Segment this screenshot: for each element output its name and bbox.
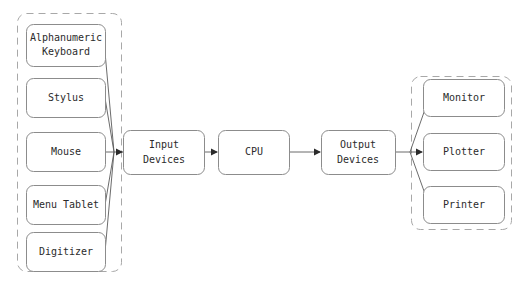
- node-mouse[interactable]: Mouse: [27, 133, 106, 172]
- node-stylus-label: Stylus: [48, 92, 84, 103]
- node-input-devices-box[interactable]: [124, 131, 205, 175]
- node-menu-tablet-label: Menu Tablet: [33, 199, 99, 210]
- node-mouse-label: Mouse: [51, 146, 81, 157]
- node-cpu[interactable]: CPU: [219, 131, 290, 175]
- node-printer-label: Printer: [443, 199, 485, 210]
- node-alphanumeric-keyboard[interactable]: Alphanumeric Keyboard: [27, 25, 106, 67]
- node-alphanumeric-keyboard-label-line1: Alphanumeric: [30, 32, 102, 43]
- block-diagram: Alphanumeric Keyboard Stylus Mouse Menu …: [0, 0, 525, 294]
- node-menu-tablet[interactable]: Menu Tablet: [27, 186, 106, 225]
- node-output-devices-box[interactable]: [322, 131, 396, 175]
- node-monitor-label: Monitor: [443, 92, 485, 103]
- diagram-canvas: Alphanumeric Keyboard Stylus Mouse Menu …: [0, 0, 525, 294]
- link-digitizer-to-input: [105, 152, 114, 252]
- node-input-devices-label-line1: Input: [149, 139, 179, 150]
- node-output-devices[interactable]: Output Devices: [322, 131, 396, 175]
- node-alphanumeric-keyboard-label-line2: Keyboard: [42, 46, 90, 57]
- node-plotter[interactable]: Plotter: [424, 134, 505, 171]
- node-input-devices[interactable]: Input Devices: [124, 131, 205, 175]
- arrow-head-plotter: [416, 149, 423, 156]
- arrow-head-cpu: [211, 149, 218, 156]
- node-digitizer[interactable]: Digitizer: [27, 233, 106, 272]
- node-monitor[interactable]: Monitor: [424, 80, 505, 117]
- arrow-head-output-devices: [314, 149, 321, 156]
- node-stylus[interactable]: Stylus: [27, 79, 106, 118]
- node-plotter-label: Plotter: [443, 146, 485, 157]
- link-keyboard-to-input: [105, 52, 114, 152]
- node-cpu-label: CPU: [245, 146, 263, 157]
- node-output-devices-label-line2: Devices: [337, 154, 379, 165]
- node-input-devices-label-line2: Devices: [143, 154, 185, 165]
- node-digitizer-label: Digitizer: [39, 246, 93, 257]
- node-output-devices-label-line1: Output: [340, 139, 376, 150]
- node-printer[interactable]: Printer: [424, 187, 505, 224]
